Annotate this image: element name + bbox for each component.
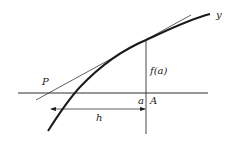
label-point-a: A: [149, 95, 157, 106]
label-a: a: [138, 95, 144, 106]
label-h: h: [96, 112, 102, 123]
label-y: y: [215, 9, 222, 20]
tangent-diagram: y P f(a) a A h: [0, 0, 226, 147]
label-p: P: [41, 76, 49, 87]
label-f-of-a: f(a): [149, 65, 168, 76]
curve-y: [48, 14, 210, 131]
